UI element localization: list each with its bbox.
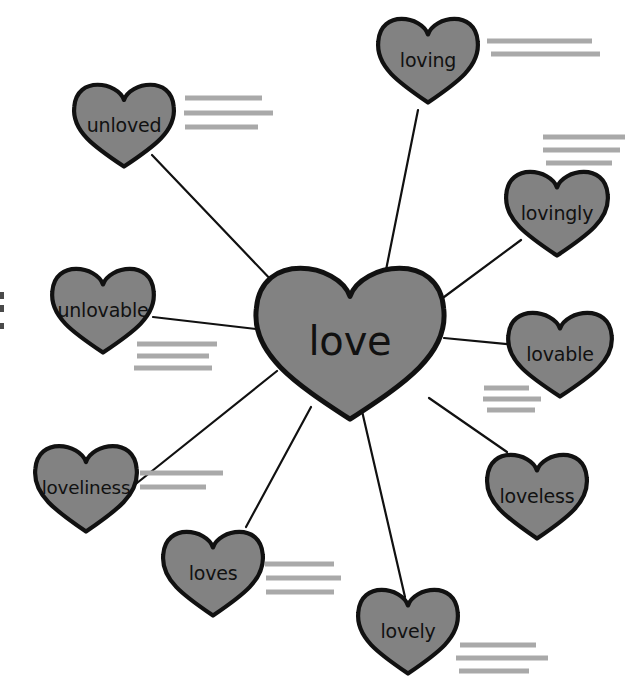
connector-line-lovely (362, 411, 405, 597)
connector-line-lovable (444, 338, 516, 345)
heart-label-unlovable: unlovable (57, 299, 148, 321)
heart-node-loves[interactable]: loves (163, 532, 263, 616)
heart-label-loves: loves (189, 562, 238, 584)
heart-label-lovingly: lovingly (521, 202, 593, 224)
connector-line-unlovable (153, 317, 256, 329)
connector-line-lovingly (440, 240, 521, 300)
connector-line-loveless (429, 398, 507, 452)
heart-node-love[interactable]: love (256, 268, 444, 419)
connector-line-unloved (152, 155, 275, 284)
heart-node-lovely[interactable]: lovely (358, 590, 458, 674)
heart-label-unloved: unloved (87, 114, 162, 136)
heart-label-love: love (308, 318, 391, 364)
heart-label-loving: loving (400, 49, 456, 71)
page-edge-mark-1 (0, 292, 4, 299)
word-web-diagram: lovingunlovedlovinglyunlovablelovablelov… (0, 0, 632, 690)
connector-line-loving (385, 110, 418, 275)
connector-line-loveliness (132, 371, 277, 487)
connector-line-loves (246, 407, 311, 527)
heart-label-loveless: loveless (499, 485, 574, 507)
heart-nodes-group: lovingunlovedlovinglyunlovablelovablelov… (35, 19, 612, 674)
heart-label-lovely: lovely (380, 620, 435, 642)
word-web-canvas: lovingunlovedlovinglyunlovablelovablelov… (0, 0, 632, 690)
heart-node-loveless[interactable]: loveless (487, 455, 587, 539)
page-edge-mark-3 (0, 323, 4, 329)
heart-node-unlovable[interactable]: unlovable (52, 269, 154, 353)
heart-node-lovable[interactable]: lovable (508, 313, 612, 397)
heart-node-loveliness[interactable]: loveliness (35, 446, 137, 531)
heart-node-loving[interactable]: loving (378, 19, 478, 103)
page-edge-mark-2 (0, 305, 4, 312)
heart-node-lovingly[interactable]: lovingly (506, 172, 608, 256)
page-edge-marks-group (0, 292, 4, 329)
heart-node-unloved[interactable]: unloved (74, 85, 174, 167)
heart-label-lovable: lovable (526, 343, 593, 365)
heart-label-loveliness: loveliness (42, 477, 131, 498)
